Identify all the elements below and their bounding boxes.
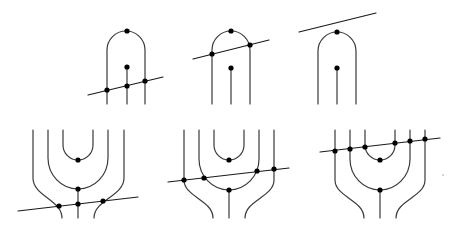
vertex-dot — [124, 28, 129, 33]
vertex-dot — [334, 29, 339, 34]
diagram-panels — [18, 13, 444, 218]
vertex-dot — [104, 87, 109, 92]
vertex-dot — [334, 65, 339, 70]
vertex-dot — [254, 168, 259, 173]
panel-top-3 — [299, 13, 376, 104]
vertex-dot — [201, 175, 206, 180]
vertex-dot — [407, 138, 412, 143]
vertex-dot — [226, 157, 231, 162]
strand — [94, 130, 124, 218]
vertex-dot — [75, 201, 80, 206]
vertex-dot — [377, 157, 382, 162]
panel-bottom-1 — [18, 130, 138, 218]
cut-line — [299, 13, 376, 32]
vertex-dot — [228, 65, 233, 70]
vertex-dot — [247, 42, 252, 47]
vertex-dot — [75, 157, 80, 162]
cut-line — [320, 138, 440, 152]
vertex-dot — [228, 28, 233, 33]
vertex-dot — [422, 136, 427, 141]
vertex-dot — [124, 83, 129, 88]
vertex-dot — [75, 186, 80, 191]
strand — [214, 130, 244, 160]
panel-bottom-2 — [168, 130, 289, 218]
vertex-dot — [362, 144, 367, 149]
vertex-dot — [181, 177, 186, 182]
vertex-dot — [392, 140, 397, 145]
vertex-dot — [209, 51, 214, 56]
vertex-dot — [142, 78, 147, 83]
panel-top-2 — [193, 28, 269, 104]
vertex-dot — [124, 64, 129, 69]
vertex-dot — [226, 187, 231, 192]
vertex-dot — [56, 203, 61, 208]
cut-line — [193, 40, 269, 59]
vertex-dot — [347, 146, 352, 151]
vertex-dot — [100, 198, 105, 203]
vertex-dot — [271, 166, 276, 171]
strand — [63, 130, 93, 160]
vertex-dot — [332, 148, 337, 153]
string-diagram-figure — [0, 0, 462, 233]
speck — [442, 174, 443, 175]
vertex-dot — [377, 187, 382, 192]
panel-top-1 — [88, 28, 163, 104]
panel-bottom-3 — [320, 130, 440, 218]
